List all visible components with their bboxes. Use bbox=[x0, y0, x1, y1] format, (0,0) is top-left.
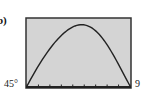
x-axis-max-label: 9 bbox=[135, 78, 140, 89]
x-axis-min-label: 45° bbox=[4, 78, 18, 89]
plot-frame bbox=[26, 18, 131, 88]
chart-plot bbox=[0, 0, 141, 98]
